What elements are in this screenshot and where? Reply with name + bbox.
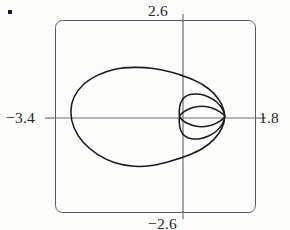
polar-curve-group (71, 67, 225, 166)
x-axis-max-label: 1.8 (259, 110, 279, 126)
plot-canvas (0, 0, 290, 230)
y-axis-min-label: −2.6 (148, 216, 177, 230)
y-axis-max-label: 2.6 (148, 3, 168, 19)
graphing-calculator-plot-figure: 2.6 −2.6 −3.4 1.8 (0, 0, 290, 230)
outer-limacon-loop (71, 67, 225, 166)
inner-loop-large (179, 94, 224, 139)
x-axis-min-label: −3.4 (6, 110, 35, 126)
inner-loop-small (180, 106, 225, 127)
